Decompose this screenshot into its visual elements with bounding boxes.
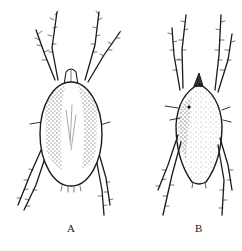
panel-label-b: B: [195, 222, 202, 234]
mite-b-eye: [187, 105, 190, 108]
mite-a: [17, 11, 121, 215]
mite-b-front-legs: [172, 15, 232, 92]
mite-illustration-figure: A B: [0, 0, 242, 251]
mite-b: [156, 15, 235, 215]
mite-a-front-legs: [36, 12, 120, 82]
panel-label-a: A: [67, 222, 75, 234]
mite-drawings: [0, 0, 242, 251]
